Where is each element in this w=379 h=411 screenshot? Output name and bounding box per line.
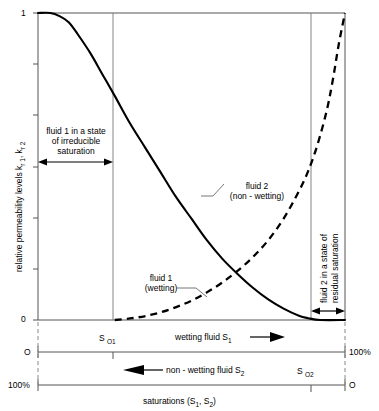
chart-canvas <box>0 0 379 411</box>
s1-axis-right-label: 100% <box>349 347 371 357</box>
s1-axis-left-label: O <box>24 347 31 357</box>
fluid-1-annotation: fluid 1 (wetting) <box>130 273 192 293</box>
irreducible-line-3: saturation <box>57 146 94 156</box>
so1-tick-label: S O1 <box>99 333 116 347</box>
y-tick-label-1: 1 <box>21 8 26 18</box>
y-axis-title: relative permeability levels kr 1, kr 2 <box>14 142 28 272</box>
residual-saturation-line-2: residual saturation <box>330 234 340 303</box>
fluid-1-line-2: (wetting) <box>145 283 178 293</box>
fluid-2-line-2: (non - wetting) <box>230 191 284 201</box>
x-axis-title: saturations (S1, S2) <box>143 396 216 410</box>
irreducible-line-1: fluid 1 in a state <box>46 126 106 136</box>
fluid-2-annotation: fluid 2 (non - wetting) <box>215 181 299 201</box>
s1-direction-label: wetting fluid S1 <box>175 332 232 346</box>
irreducible-arrow-left <box>38 159 47 166</box>
s2-axis-left-label: 100% <box>8 380 30 390</box>
fluid-2-line-1: fluid 2 <box>246 181 269 191</box>
irreducible-line-2: of irreducible <box>52 136 101 146</box>
s2-axis-right-label: O <box>349 380 356 390</box>
relative-permeability-chart: 1 0 relative permeability levels kr 1, k… <box>0 0 379 411</box>
y-tick-label-0: 0 <box>21 314 26 324</box>
so2-tick-label: S O2 <box>297 366 314 380</box>
s2-direction-label: non - wetting fluid S2 <box>166 365 244 379</box>
fluid-1-line-1: fluid 1 <box>150 273 173 283</box>
irreducible-arrow-right <box>104 159 113 166</box>
s2-direction-arrow-head <box>123 365 144 375</box>
irreducible-saturation-annotation: fluid 1 in a state of irreducible satura… <box>41 126 111 156</box>
residual-arrow-left <box>311 308 320 315</box>
residual-saturation-line-1: fluid 2 in a state of <box>319 234 329 303</box>
residual-arrow-right <box>336 308 345 315</box>
s1-direction-arrow-head <box>270 332 285 342</box>
